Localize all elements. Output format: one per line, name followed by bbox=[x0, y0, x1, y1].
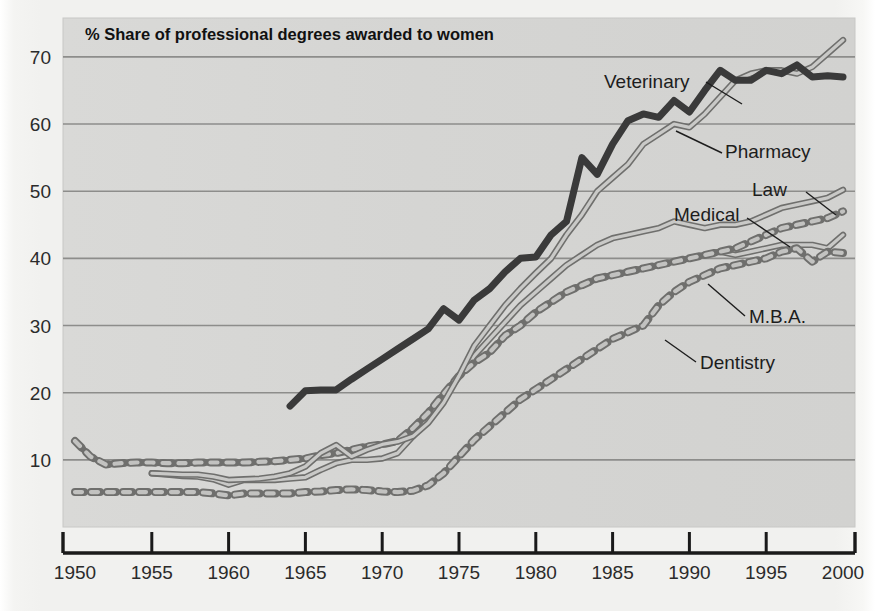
x-axis-tick-label: 1975 bbox=[438, 562, 480, 583]
series-label: Law bbox=[752, 179, 787, 200]
x-axis-tick-label: 1955 bbox=[131, 562, 173, 583]
y-axis-tick-label: 40 bbox=[30, 248, 51, 269]
x-axis bbox=[63, 532, 855, 553]
y-axis-tick-label: 30 bbox=[30, 316, 51, 337]
x-axis-tick-label: 1970 bbox=[361, 562, 403, 583]
y-axis-tick-label: 50 bbox=[30, 181, 51, 202]
chart-title: % Share of professional degrees awarded … bbox=[85, 25, 494, 43]
y-axis-tick-label: 70 bbox=[30, 47, 51, 68]
y-axis-tick-label: 10 bbox=[30, 450, 51, 471]
x-axis-tick-label: 1965 bbox=[284, 562, 326, 583]
x-axis-tick-label: 1990 bbox=[668, 562, 710, 583]
x-axis-tick-label: 1960 bbox=[207, 562, 249, 583]
series-label: Dentistry bbox=[700, 352, 775, 373]
x-axis-tick-label: 1980 bbox=[515, 562, 557, 583]
series-label: Pharmacy bbox=[725, 141, 811, 162]
series-label: Medical bbox=[674, 204, 739, 225]
x-axis-tick-label: 1985 bbox=[591, 562, 633, 583]
series-label: Veterinary bbox=[604, 71, 690, 92]
y-axis-tick-label: 60 bbox=[30, 114, 51, 135]
line-chart: 10203040506070% Share of professional de… bbox=[0, 0, 875, 611]
series-label: M.B.A. bbox=[749, 306, 806, 327]
x-axis-tick-label: 1950 bbox=[54, 562, 96, 583]
chart-figure: 10203040506070% Share of professional de… bbox=[0, 0, 875, 611]
x-axis-tick-label: 1995 bbox=[745, 562, 787, 583]
y-axis-tick-label: 20 bbox=[30, 383, 51, 404]
x-axis-tick-label: 2000 bbox=[822, 562, 864, 583]
